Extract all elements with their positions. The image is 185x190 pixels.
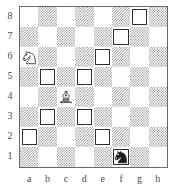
board-square-f4[interactable] (112, 87, 130, 107)
board-square-c1[interactable] (57, 147, 75, 167)
rank-label-2: 2 (4, 126, 16, 146)
board-square-b8[interactable] (38, 7, 56, 27)
board-square-a8[interactable] (20, 7, 38, 27)
piece-black-knight-f1[interactable] (112, 147, 130, 167)
board-square-h3[interactable] (149, 107, 167, 127)
file-label-b: b (38, 171, 56, 187)
board-square-f7[interactable] (112, 27, 130, 47)
square-marker-d5 (77, 69, 92, 86)
board-square-f5[interactable] (112, 67, 130, 87)
board-square-d5[interactable] (75, 67, 93, 87)
board-square-d1[interactable] (75, 147, 93, 167)
square-marker-f7 (113, 29, 128, 46)
board-square-b4[interactable] (38, 87, 56, 107)
board-square-f2[interactable] (112, 127, 130, 147)
file-label-d: d (75, 171, 93, 187)
rank-label-4: 4 (4, 86, 16, 106)
board-square-d3[interactable] (75, 107, 93, 127)
file-label-c: c (57, 171, 75, 187)
board-square-b7[interactable] (38, 27, 56, 47)
piece-white-knight-a6[interactable] (20, 47, 38, 67)
board-square-b2[interactable] (38, 127, 56, 147)
board-square-b6[interactable] (38, 47, 56, 67)
board-square-g4[interactable] (130, 87, 148, 107)
board-square-h5[interactable] (149, 67, 167, 87)
rank-label-3: 3 (4, 106, 16, 126)
board-square-c8[interactable] (57, 7, 75, 27)
board-square-e7[interactable] (94, 27, 112, 47)
board-square-h1[interactable] (149, 147, 167, 167)
board-square-h4[interactable] (149, 87, 167, 107)
square-marker-e6 (95, 49, 110, 66)
board-square-c7[interactable] (57, 27, 75, 47)
square-marker-d3 (77, 109, 92, 126)
board-square-h7[interactable] (149, 27, 167, 47)
board-square-e8[interactable] (94, 7, 112, 27)
board-square-b5[interactable] (38, 67, 56, 87)
square-marker-e2 (95, 129, 110, 146)
board-square-g8[interactable] (130, 7, 148, 27)
board-square-f6[interactable] (112, 47, 130, 67)
board-square-a1[interactable] (20, 147, 38, 167)
board-square-g2[interactable] (130, 127, 148, 147)
board-square-f3[interactable] (112, 107, 130, 127)
rank-label-5: 5 (4, 66, 16, 86)
white-bishop-icon (58, 89, 74, 105)
board-square-d2[interactable] (75, 127, 93, 147)
board-square-e5[interactable] (94, 67, 112, 87)
board-square-c6[interactable] (57, 47, 75, 67)
chess-board[interactable] (19, 6, 168, 168)
rank-label-1: 1 (4, 146, 16, 166)
rank-label-8: 8 (4, 6, 16, 26)
board-square-e4[interactable] (94, 87, 112, 107)
file-label-a: a (20, 171, 38, 187)
rank-label-6: 6 (4, 46, 16, 66)
square-marker-g8 (132, 9, 147, 26)
board-square-d7[interactable] (75, 27, 93, 47)
board-square-a4[interactable] (20, 87, 38, 107)
board-square-e6[interactable] (94, 47, 112, 67)
board-square-c2[interactable] (57, 127, 75, 147)
board-square-d4[interactable] (75, 87, 93, 107)
chess-diagram: 87654321 abcdefgh (0, 0, 185, 190)
board-square-e3[interactable] (94, 107, 112, 127)
board-square-g7[interactable] (130, 27, 148, 47)
board-square-a5[interactable] (20, 67, 38, 87)
board-square-b1[interactable] (38, 147, 56, 167)
square-marker-b3 (40, 109, 55, 126)
board-square-c4[interactable] (57, 87, 75, 107)
board-square-b3[interactable] (38, 107, 56, 127)
board-grid (20, 7, 167, 167)
board-square-a3[interactable] (20, 107, 38, 127)
board-square-h6[interactable] (149, 47, 167, 67)
file-label-g: g (130, 171, 148, 187)
board-square-e2[interactable] (94, 127, 112, 147)
black-knight-icon (113, 149, 129, 165)
board-square-e1[interactable] (94, 147, 112, 167)
board-square-g1[interactable] (130, 147, 148, 167)
board-square-a2[interactable] (20, 127, 38, 147)
board-square-g3[interactable] (130, 107, 148, 127)
board-square-c5[interactable] (57, 67, 75, 87)
board-square-g6[interactable] (130, 47, 148, 67)
file-label-h: h (149, 171, 167, 187)
board-square-c3[interactable] (57, 107, 75, 127)
board-square-f1[interactable] (112, 147, 130, 167)
board-square-h8[interactable] (149, 7, 167, 27)
file-label-f: f (112, 171, 130, 187)
board-square-g5[interactable] (130, 67, 148, 87)
white-knight-icon (21, 49, 38, 66)
board-square-a6[interactable] (20, 47, 38, 67)
board-square-h2[interactable] (149, 127, 167, 147)
rank-label-7: 7 (4, 26, 16, 46)
square-marker-a2 (22, 129, 37, 146)
board-square-f8[interactable] (112, 7, 130, 27)
square-marker-b5 (40, 69, 55, 86)
board-square-d6[interactable] (75, 47, 93, 67)
piece-white-bishop-c4[interactable] (57, 87, 75, 107)
board-square-a7[interactable] (20, 27, 38, 47)
board-square-d8[interactable] (75, 7, 93, 27)
file-label-e: e (94, 171, 112, 187)
